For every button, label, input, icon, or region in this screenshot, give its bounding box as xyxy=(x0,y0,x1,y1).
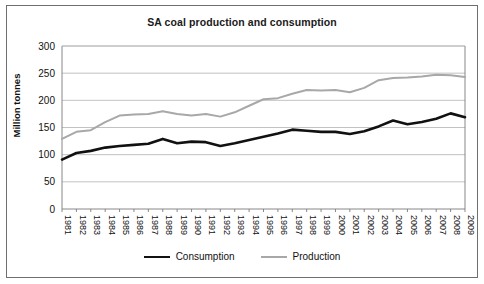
x-tick-label: 2003 xyxy=(380,215,390,235)
x-tick-label: 2005 xyxy=(409,215,419,235)
x-tick-label: 1988 xyxy=(164,215,174,235)
series-line-consumption xyxy=(62,113,465,159)
y-tick-label: 100 xyxy=(38,149,55,160)
y-tick-label: 250 xyxy=(38,68,55,79)
y-tick-label: 200 xyxy=(38,95,55,106)
x-tick-label: 1992 xyxy=(222,215,232,235)
y-tick-label: 150 xyxy=(38,122,55,133)
legend-label: Consumption xyxy=(176,251,235,262)
x-tick-label: 2000 xyxy=(337,215,347,235)
legend-entry-consumption[interactable]: Consumption xyxy=(144,251,235,262)
x-tick-label: 1991 xyxy=(207,215,217,235)
x-tick-label: 2002 xyxy=(366,215,376,235)
x-tick-label: 1985 xyxy=(121,215,131,235)
legend-swatch-icon xyxy=(144,256,170,258)
x-tick-label: 1982 xyxy=(78,215,88,235)
x-tick-label: 1995 xyxy=(265,215,275,235)
x-tick-label: 1984 xyxy=(107,215,117,235)
chart-figure: SA coal production and consumption Milli… xyxy=(0,0,484,284)
x-tick-label: 1986 xyxy=(135,215,145,235)
legend-swatch-icon xyxy=(261,256,287,258)
x-tick-label: 1997 xyxy=(294,215,304,235)
legend-label: Production xyxy=(293,251,341,262)
x-tick-label: 1998 xyxy=(308,215,318,235)
series-line-production xyxy=(62,75,465,139)
gridlines xyxy=(62,46,465,209)
x-tick-label: 1989 xyxy=(179,215,189,235)
x-tick-label: 1996 xyxy=(279,215,289,235)
x-tick-label: 1993 xyxy=(236,215,246,235)
x-axis-ticks: 1981198219831984198519861987198819891990… xyxy=(62,209,476,235)
y-axis-ticks: 050100150200250300 xyxy=(38,41,55,215)
legend-entry-production[interactable]: Production xyxy=(261,251,341,262)
x-tick-label: 2009 xyxy=(466,215,476,235)
y-tick-label: 0 xyxy=(49,204,55,215)
x-tick-label: 2008 xyxy=(452,215,462,235)
y-tick-label: 300 xyxy=(38,41,55,52)
data-series xyxy=(62,75,465,160)
x-tick-label: 1987 xyxy=(150,215,160,235)
x-tick-label: 2006 xyxy=(423,215,433,235)
x-tick-label: 1983 xyxy=(92,215,102,235)
x-tick-label: 1981 xyxy=(63,215,73,235)
x-tick-label: 1999 xyxy=(322,215,332,235)
chart-legend: ConsumptionProduction xyxy=(0,251,484,262)
x-tick-label: 2004 xyxy=(394,215,404,235)
x-tick-label: 2007 xyxy=(438,215,448,235)
x-tick-label: 1994 xyxy=(251,215,261,235)
plot-area: 050100150200250300 198119821983198419851… xyxy=(0,0,484,284)
x-tick-label: 1990 xyxy=(193,215,203,235)
y-tick-label: 50 xyxy=(44,176,56,187)
x-tick-label: 2001 xyxy=(351,215,361,235)
